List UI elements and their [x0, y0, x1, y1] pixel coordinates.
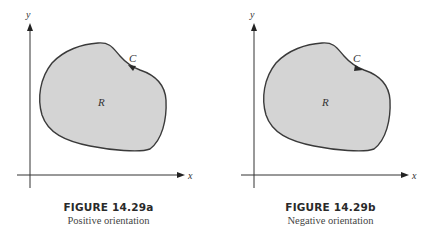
x-axis-arrow-icon	[177, 172, 185, 178]
caption-a: FIGURE 14.29a Positive orientation	[0, 200, 217, 227]
region-label: R	[97, 96, 105, 108]
caption-b: FIGURE 14.29b Negative orientation	[222, 200, 434, 227]
region-label: R	[321, 96, 329, 108]
diagram-a: y x C R	[0, 0, 217, 200]
x-axis-label: x	[411, 170, 417, 181]
orientation-arrow-icon	[354, 65, 363, 71]
figure-title: FIGURE 14.29b	[222, 200, 434, 214]
curve-label: C	[129, 52, 137, 64]
x-axis-arrow-icon	[401, 172, 409, 178]
y-axis-label: y	[249, 9, 255, 20]
figure-a: y x C R FIGURE 14.29a Positive orientati…	[0, 0, 217, 244]
y-axis-arrow-icon	[251, 23, 257, 31]
figure-subtitle: Negative orientation	[222, 214, 434, 227]
diagram-b: y x C R	[222, 0, 434, 200]
y-axis-label: y	[25, 9, 31, 20]
figure-subtitle: Positive orientation	[0, 214, 217, 227]
curve-label: C	[353, 52, 361, 64]
y-axis-arrow-icon	[27, 23, 33, 31]
figure-title: FIGURE 14.29a	[0, 200, 217, 214]
figure-b: y x C R FIGURE 14.29b Negative orientati…	[222, 0, 434, 244]
x-axis-label: x	[187, 170, 193, 181]
